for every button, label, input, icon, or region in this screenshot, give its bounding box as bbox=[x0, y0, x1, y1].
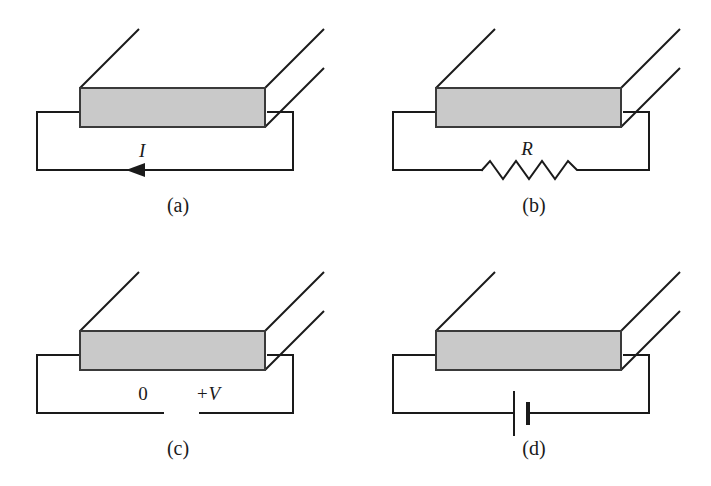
panel-b: R (b) bbox=[356, 0, 711, 243]
panel-caption-d: (d) bbox=[522, 437, 545, 460]
terminal-label-plus-v: +V bbox=[196, 383, 223, 404]
perspective-line-bottom-right bbox=[621, 311, 680, 370]
perspective-line-top-left bbox=[80, 272, 139, 331]
panel-caption-b: (b) bbox=[522, 194, 545, 217]
panel-d: (d) bbox=[356, 243, 711, 486]
perspective-line-top-left bbox=[436, 29, 495, 88]
panel-a: I (a) bbox=[0, 0, 355, 243]
perspective-line-bottom-right bbox=[621, 68, 680, 127]
perspective-line-top-right bbox=[265, 272, 324, 331]
conducting-bar-slab bbox=[80, 88, 265, 127]
conducting-bar-slab bbox=[436, 88, 621, 127]
terminal-label-zero: 0 bbox=[138, 383, 148, 404]
resistor-symbol bbox=[482, 161, 585, 179]
perspective-line-bottom-right bbox=[265, 68, 324, 127]
perspective-line-top-left bbox=[80, 29, 139, 88]
perspective-line-top-right bbox=[621, 29, 680, 88]
perspective-line-top-right bbox=[265, 29, 324, 88]
physics-circuit-figure: I (a) R (b) bbox=[0, 0, 711, 486]
conducting-bar-slab bbox=[436, 331, 621, 370]
resistance-label: R bbox=[520, 138, 533, 159]
perspective-line-bottom-right bbox=[265, 311, 324, 370]
perspective-line-top-right bbox=[621, 272, 680, 331]
panel-c: 0 +V (c) bbox=[0, 243, 355, 486]
current-arrowhead bbox=[126, 163, 145, 177]
conducting-bar-slab bbox=[80, 331, 265, 370]
perspective-line-top-left bbox=[436, 272, 495, 331]
current-label: I bbox=[138, 140, 147, 161]
panel-caption-c: (c) bbox=[167, 437, 189, 460]
panel-caption-a: (a) bbox=[167, 194, 189, 217]
